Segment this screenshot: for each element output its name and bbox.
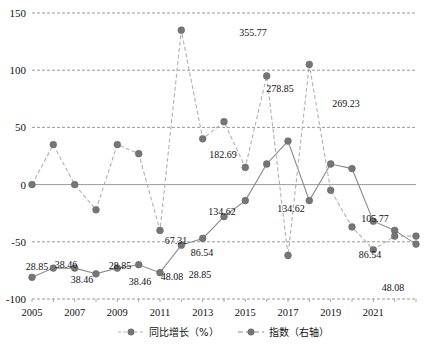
- data-value-label: 278.85: [266, 83, 294, 94]
- y-axis-label: -100: [6, 293, 27, 305]
- data-value-label: 355.77: [239, 27, 267, 38]
- data-value-label: 48.08: [382, 282, 405, 293]
- growth-data-point: [221, 118, 228, 125]
- index-data-point: [413, 241, 420, 248]
- growth-data-point: [285, 252, 292, 259]
- y-axis-label: -50: [11, 236, 26, 248]
- data-value-label: 38.46: [55, 259, 78, 270]
- growth-data-point: [413, 233, 420, 240]
- x-axis-label: 2009: [107, 307, 128, 318]
- growth-data-point: [391, 233, 398, 240]
- x-axis-label: 2015: [235, 307, 256, 318]
- data-value-label: 28.85: [26, 261, 49, 272]
- data-value-label: 48.08: [161, 271, 184, 282]
- index-data-point: [327, 161, 334, 168]
- index-data-point: [349, 165, 356, 172]
- legend-marker-index: [248, 329, 254, 335]
- data-value-label: 38.46: [129, 276, 152, 287]
- growth-data-point: [327, 187, 334, 194]
- growth-data-point: [71, 181, 78, 188]
- data-value-label: 105.77: [361, 213, 389, 224]
- growth-data-point: [242, 164, 249, 171]
- y-axis-label: 100: [10, 64, 27, 76]
- growth-data-point: [178, 27, 185, 34]
- growth-data-point: [29, 181, 36, 188]
- index-data-point: [93, 270, 100, 277]
- growth-data-point: [349, 224, 356, 231]
- growth-data-point: [135, 150, 142, 157]
- index-data-point: [285, 138, 292, 145]
- data-value-label: 28.85: [189, 269, 212, 280]
- data-value-labels: 28.8538.4638.4628.8538.4648.0828.8567.31…: [26, 27, 405, 293]
- x-axis-label: 2019: [320, 307, 341, 318]
- growth-data-point: [93, 206, 100, 213]
- y-axis-label: 150: [10, 7, 27, 19]
- growth-data-point: [114, 141, 121, 148]
- data-value-label: 86.54: [359, 249, 382, 260]
- legend-marker-growth: [128, 329, 134, 335]
- growth-series-path: [32, 30, 416, 255]
- series-growth-line: [32, 30, 416, 255]
- y-axis-label: 0: [21, 179, 27, 191]
- index-data-point: [199, 235, 206, 242]
- x-axis-label: 2013: [192, 307, 213, 318]
- growth-data-point: [306, 61, 313, 68]
- data-value-label: 134.62: [277, 203, 305, 214]
- index-data-point: [29, 274, 36, 281]
- x-axis-label: 2011: [150, 307, 171, 318]
- data-value-label: 86.54: [191, 247, 214, 258]
- growth-data-point: [199, 135, 206, 142]
- index-data-point: [242, 197, 249, 204]
- index-data-point: [135, 261, 142, 268]
- data-value-label: 134.62: [208, 206, 236, 217]
- data-value-label: 182.69: [209, 149, 237, 160]
- legend-label-index: 指数（右轴）: [269, 326, 329, 338]
- legend-label-growth: 同比增长（%）: [149, 326, 219, 338]
- line-chart: 150100500-50-100 20052007200920112013201…: [0, 0, 424, 344]
- index-data-point: [306, 197, 313, 204]
- growth-data-point: [157, 227, 164, 234]
- x-axis-line: [32, 299, 416, 302]
- x-axis-label: 2005: [22, 307, 43, 318]
- x-axis-label: 2017: [278, 307, 299, 318]
- growth-data-point: [50, 141, 57, 148]
- y-axis-label: 50: [15, 121, 27, 133]
- index-data-point: [263, 161, 270, 168]
- data-value-label: 67.31: [165, 235, 188, 246]
- x-axis-label: 2021: [363, 307, 384, 318]
- y-axis-tick-labels: 150100500-50-100: [6, 7, 27, 305]
- data-value-label: 38.46: [71, 274, 94, 285]
- growth-data-point: [263, 73, 270, 80]
- data-value-label: 269.23: [332, 98, 360, 109]
- data-value-label: 28.85: [109, 260, 132, 271]
- chart-legend: 同比增长（%）指数（右轴）: [118, 326, 329, 338]
- chart-container: 150100500-50-100 20052007200920112013201…: [0, 0, 424, 344]
- x-axis-label: 2007: [64, 307, 85, 318]
- x-axis-tick-labels: 200520072009201120132015201720192021: [22, 307, 384, 318]
